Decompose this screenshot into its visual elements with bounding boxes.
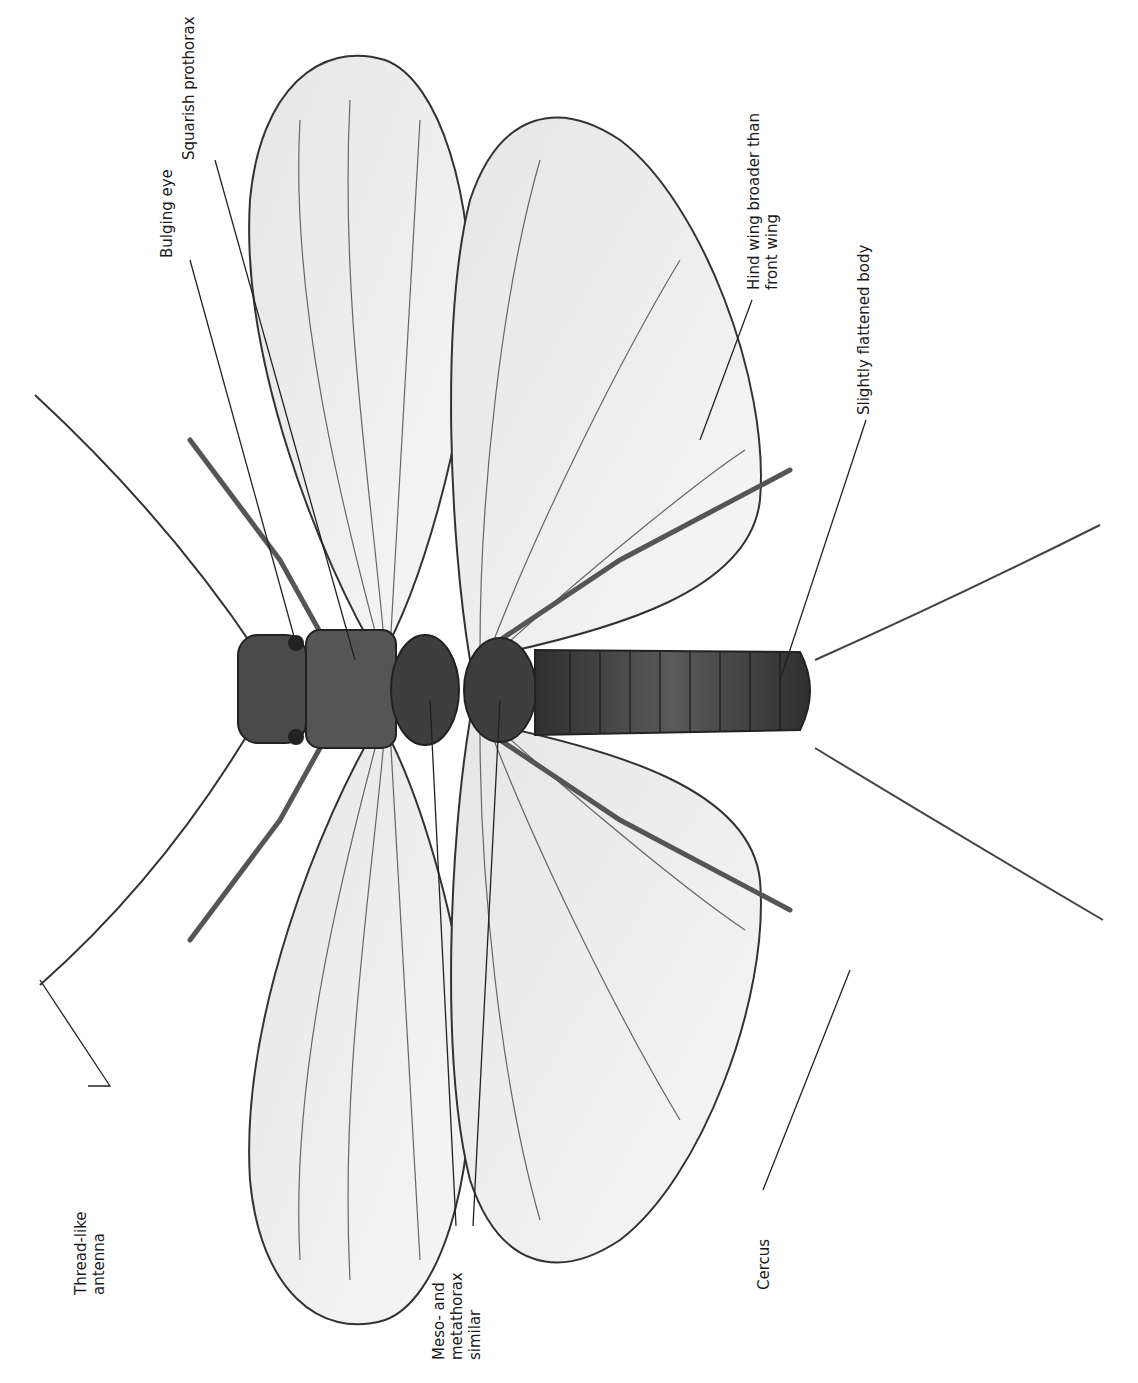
antenna-upper <box>35 395 262 660</box>
hind-wing-upper <box>451 118 761 660</box>
label-line: Hind wing broader than <box>745 113 763 290</box>
label-line: similar <box>466 1272 484 1360</box>
label-hind-wing: Hind wing broader than front wing <box>745 113 781 290</box>
label-meso-metathorax: Meso- and metathorax similar <box>430 1272 484 1360</box>
cerci <box>815 525 1103 920</box>
label-line: Squarish prothorax <box>180 16 198 160</box>
label-bulging-eye: Bulging eye <box>158 169 176 258</box>
leader-cercus <box>763 970 850 1190</box>
label-line: Thread-like <box>72 1211 90 1295</box>
metathorax <box>464 638 536 742</box>
label-line: Bulging eye <box>158 169 176 258</box>
eye-upper <box>288 635 304 651</box>
label-line: Cercus <box>755 1239 773 1290</box>
mesothorax <box>391 635 459 745</box>
label-line: Meso- and <box>430 1272 448 1360</box>
label-cercus: Cercus <box>755 1239 773 1290</box>
label-line: front wing <box>763 113 781 290</box>
head <box>238 635 306 743</box>
leader-body <box>780 420 866 680</box>
antenna-lower <box>40 710 262 985</box>
label-line: metathorax <box>448 1272 466 1360</box>
label-thread-like-antenna: Thread-like antenna <box>72 1211 108 1295</box>
abdomen <box>535 650 810 735</box>
hind-wing-lower <box>451 720 761 1262</box>
label-flattened-body: Slightly flattened body <box>855 245 873 415</box>
label-line: Slightly flattened body <box>855 245 873 415</box>
label-line: antenna <box>90 1211 108 1295</box>
leader-antenna <box>40 980 110 1086</box>
label-squarish-prothorax: Squarish prothorax <box>180 16 198 160</box>
eye-lower <box>288 729 304 745</box>
